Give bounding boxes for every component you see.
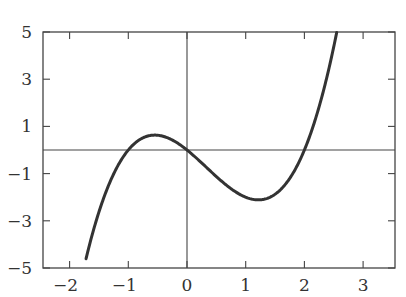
y-tick-labels: −5−3−1135 xyxy=(7,22,32,278)
y-tick-label: 5 xyxy=(21,22,32,42)
x-tick-label: −1 xyxy=(112,275,137,295)
y-tick-label: 1 xyxy=(21,116,32,136)
y-tick-label: 3 xyxy=(21,69,32,89)
x-tick-label: −2 xyxy=(53,275,78,295)
x-tick-label: 3 xyxy=(358,275,369,295)
x-tick-label: 0 xyxy=(182,275,193,295)
x-tick-labels: −2−10123 xyxy=(53,275,368,295)
zero-axis-lines xyxy=(43,32,395,268)
x-tick-label: 2 xyxy=(299,275,310,295)
curve-series xyxy=(86,33,337,259)
x-tick-label: 1 xyxy=(240,275,251,295)
cubic-function-plot: −2−10123 −5−3−1135 xyxy=(0,0,406,297)
y-tick-label: −1 xyxy=(7,164,32,184)
y-tick-label: −5 xyxy=(7,258,32,278)
cubic-curve xyxy=(86,33,337,259)
y-tick-label: −3 xyxy=(7,211,32,231)
